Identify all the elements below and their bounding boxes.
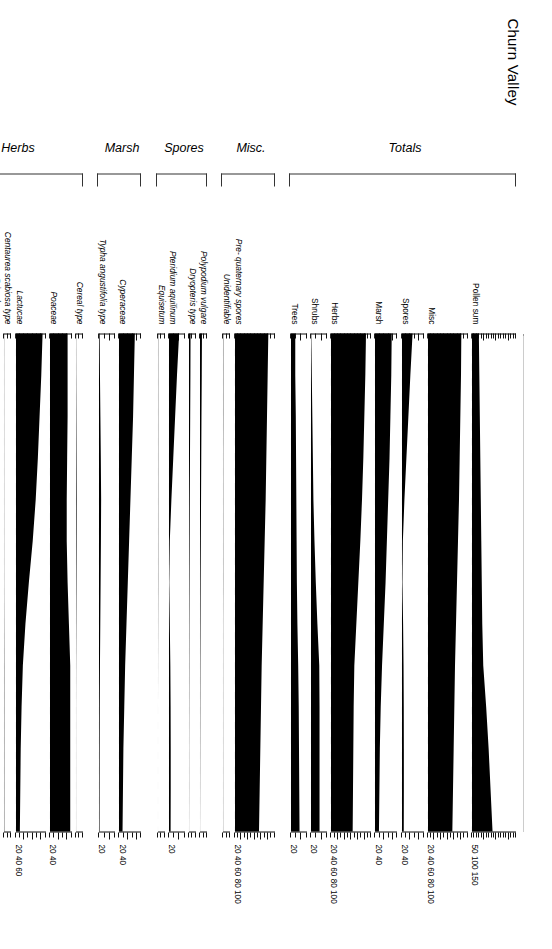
taxon-label: Polypodium vulgare [200, 250, 208, 324]
taxon-row: Cereal type [76, 333, 83, 831]
group-bracket [0, 173, 83, 186]
taxon-label: Pollen sum [472, 283, 480, 324]
taxon-curve [99, 333, 115, 831]
taxon-row: Lactucae20 40 60 [16, 333, 46, 831]
taxon-label: Trees [291, 303, 299, 324]
group-label: Marsh [105, 140, 140, 154]
taxon-scale-ticks-right [99, 831, 115, 839]
page-title: Churn Valley [505, 18, 522, 105]
taxon-scale-label: 20 [97, 844, 105, 853]
taxon-scale-ticks-right [169, 831, 185, 839]
taxon-row: Pollen sum50 100 150 [472, 333, 516, 831]
taxon-row: Cyperaceae20 40 [119, 333, 141, 831]
taxon-scale-ticks-right [189, 831, 196, 839]
taxon-label: Herbs [331, 302, 339, 324]
taxon-label: Equisetum [158, 284, 166, 324]
taxon-curve [223, 333, 230, 831]
taxon-label: Spores [402, 297, 410, 324]
taxon-row: Equisetum [158, 333, 165, 831]
taxon-scale-ticks-right [158, 831, 165, 839]
taxon-scale-label: 50 100 150 [470, 844, 478, 885]
taxon-curve [189, 333, 196, 831]
taxon-scale-label: 20 [167, 844, 175, 853]
taxon-row: Herbs20 40 60 80 100 [331, 333, 371, 831]
pollen-diagram: Churn Valley Pollen sum50 100 150Misc20 … [0, 0, 552, 949]
taxon-scale-label: 20 40 [373, 844, 381, 865]
taxon-scale-ticks-right [331, 831, 371, 839]
taxon-row: Misc20 40 60 80 100 [428, 333, 468, 831]
taxon-curve [235, 333, 275, 831]
taxon-row: Poaceae20 40 [50, 333, 72, 831]
taxon-scale-ticks-right [375, 831, 397, 839]
taxon-curve [428, 333, 468, 831]
taxon-label: Dryopteris type [189, 268, 197, 324]
taxon-scale-ticks-right [235, 831, 275, 839]
taxon-scale-label: 20 40 [117, 844, 125, 865]
taxon-label: Centaurea scabiosa type [4, 231, 12, 324]
group-bracket [221, 173, 274, 186]
group-bracket [97, 173, 141, 186]
group-label: Herbs [1, 140, 34, 154]
taxon-label: Poaceae [50, 291, 58, 324]
taxon-row: Pteridium aquilinum20 [169, 333, 185, 831]
taxon-row: Pre- quaternary spores20 40 60 80 100 [235, 333, 275, 831]
taxon-scale-label: 20 [289, 844, 297, 853]
taxon-curve [331, 333, 371, 831]
taxon-label: Shrubs [311, 297, 319, 324]
taxon-row: Trees20 [291, 333, 307, 831]
taxon-row: Typha angustifolia type20 [99, 333, 115, 831]
taxon-label: Unidentifiable [223, 273, 231, 324]
taxon-curve [402, 333, 424, 831]
taxon-scale-ticks-right [76, 831, 83, 839]
plot-top-rule [523, 333, 524, 831]
taxon-label: Pre- quaternary spores [235, 238, 243, 324]
taxon-scale-label: 20 40 60 [14, 844, 22, 876]
taxon-scale-ticks-right [16, 831, 46, 839]
taxon-curve [76, 333, 83, 831]
group-label: Totals [389, 140, 422, 154]
taxon-scale-label: 20 40 60 80 100 [426, 844, 434, 903]
taxon-row: Marsh20 40 [375, 333, 397, 831]
taxon-scale-label: 20 [309, 844, 317, 853]
taxon-scale-ticks-right [119, 831, 141, 839]
group-label: Spores [165, 140, 205, 154]
taxon-label: Misc [428, 307, 436, 324]
taxon-label: Cyperaceae [119, 279, 127, 324]
taxon-label: Lactucae [16, 290, 24, 324]
taxon-scale-label: 20 40 60 80 100 [233, 844, 241, 903]
taxon-curve [472, 333, 516, 831]
taxon-label: Cereal type [76, 281, 84, 324]
taxon-curve [169, 333, 185, 831]
taxon-curve [50, 333, 72, 831]
taxon-row: Dryopteris type [189, 333, 196, 831]
taxon-scale-label: 20 40 [400, 844, 408, 865]
taxon-label: Primulaceae [0, 277, 1, 324]
taxon-curve [200, 333, 207, 831]
taxon-row: Unidentifiable [223, 333, 230, 831]
taxon-scale-ticks-right [291, 831, 307, 839]
group-bracket [156, 173, 208, 186]
taxon-scale-ticks-right [311, 831, 327, 839]
taxon-scale-ticks-right [223, 831, 230, 839]
taxon-scale-label: 20 40 [48, 844, 56, 865]
taxon-scale-label: 20 40 60 80 100 [329, 844, 337, 903]
taxon-scale-ticks-right [472, 831, 516, 839]
taxon-curve [16, 333, 46, 831]
taxon-label: Typha angustifolia type [99, 238, 107, 324]
taxon-scale-ticks-right [402, 831, 424, 839]
taxon-row: Polypodium vulgare [200, 333, 207, 831]
taxon-curve [311, 333, 327, 831]
taxon-scale-ticks-right [4, 831, 11, 839]
taxon-scale-ticks-right [428, 831, 468, 839]
taxon-curve [4, 333, 11, 831]
taxon-curve [119, 333, 141, 831]
taxon-curve [158, 333, 165, 831]
taxon-curve [375, 333, 397, 831]
group-label: Misc. [236, 140, 265, 154]
taxon-row: Shrubs20 [311, 333, 327, 831]
taxon-scale-ticks-right [200, 831, 207, 839]
taxon-row: Centaurea scabiosa type [4, 333, 11, 831]
taxon-row: Spores20 40 [402, 333, 424, 831]
taxon-scale-ticks-right [50, 831, 72, 839]
taxon-label: Pteridium aquilinum [169, 250, 177, 324]
